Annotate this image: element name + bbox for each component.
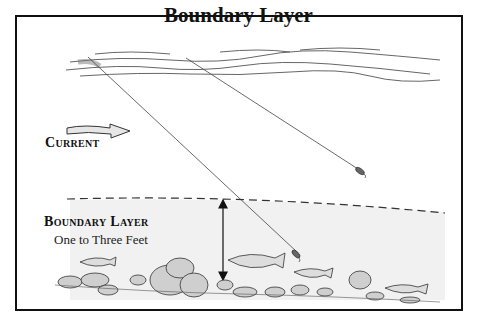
depth-label: One to Three Feet [54, 232, 148, 248]
water-surface [66, 48, 440, 81]
lure-2 [354, 166, 365, 178]
diagram-title: Boundary Layer [0, 3, 477, 28]
boundary-layer-illustration [0, 0, 477, 326]
current-label: Current [45, 135, 99, 151]
fishing-line-2 [186, 58, 358, 169]
boundary-layer-label: Boundary Layer [44, 214, 149, 230]
